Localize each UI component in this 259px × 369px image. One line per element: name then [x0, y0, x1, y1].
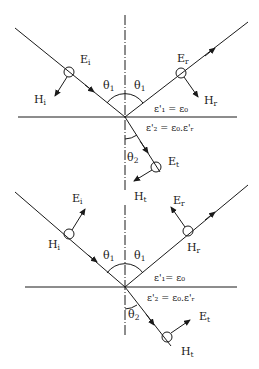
reflected-ray-arrow-icon: [205, 48, 215, 56]
incident-e-vector-arrow-icon: [72, 209, 85, 230]
transmitted-ray-arrow-icon: [146, 314, 154, 325]
transmission-angle-arc: [125, 135, 137, 139]
reflected-h-vector-arrow-icon: [184, 77, 198, 97]
incident-ray-arrow-icon: [85, 85, 94, 92]
incident-h-vector-arrow-icon: [55, 77, 67, 96]
transmitted-field-out-of-plane-icon: [151, 162, 161, 172]
label-incident-e: Ei: [80, 53, 91, 67]
transmitted-h-vector-arrow-icon: [134, 170, 152, 181]
incident-field-out-of-plane-icon: [64, 229, 74, 239]
top-panel: Ei Hi Er Hr θ1 θ1 θ2 Et Ht ε'₁ = ε₀ ε'₂ …: [15, 15, 248, 204]
incident-ray: [15, 192, 125, 287]
label-theta-incident: θ1: [103, 79, 114, 93]
label-medium1: ε'₁ = ε₀: [154, 103, 188, 114]
transmitted-ray-arrow-icon: [140, 141, 148, 153]
incident-ray: [15, 28, 125, 117]
reflected-e-vector-arrow-icon: [171, 207, 185, 227]
label-reflected-h: Hr: [204, 94, 218, 108]
label-theta-incident: θ1: [103, 249, 114, 263]
reflection-refraction-diagram: Ei Hi Er Hr θ1 θ1 θ2 Et Ht ε'₁ = ε₀ ε'₂ …: [0, 0, 259, 369]
bottom-panel: Ei Hi Er Hr θ1 θ1 θ2 Et Ht ε'₁= ε₀ ε'₂ =…: [15, 185, 248, 359]
label-reflected-h: Hr: [187, 241, 201, 255]
label-theta-transmitted: θ2: [127, 151, 139, 165]
label-medium2: ε'₂ = ε₀.ε'ᵣ: [146, 122, 194, 133]
diagram-canvas: Ei Hi Er Hr θ1 θ1 θ2 Et Ht ε'₁ = ε₀ ε'₂ …: [0, 0, 259, 369]
label-medium2: ε'₂ = ε₀.ε'ᵣ: [147, 292, 195, 303]
transmitted-e-vector-arrow-icon: [171, 320, 190, 333]
label-reflected-e: Er: [177, 52, 189, 66]
label-medium1: ε'₁= ε₀: [154, 272, 185, 283]
label-incident-e: Ei: [72, 192, 83, 206]
label-incident-h: Hi: [34, 93, 47, 107]
reflected-ray-arrow-icon: [205, 212, 215, 220]
label-theta-reflected: θ1: [134, 79, 145, 93]
label-transmitted-h: Ht: [181, 345, 194, 359]
label-transmitted-e: Et: [199, 310, 210, 324]
label-transmitted-h: Ht: [134, 190, 147, 204]
label-theta-transmitted: θ2: [128, 308, 140, 322]
reflected-field-out-of-plane-icon: [176, 68, 186, 78]
label-theta-reflected: θ1: [134, 249, 145, 263]
incident-ray-arrow-icon: [88, 255, 97, 262]
label-incident-h: Hi: [48, 238, 61, 252]
label-transmitted-e: Et: [168, 155, 179, 169]
label-reflected-e: Er: [173, 194, 185, 208]
